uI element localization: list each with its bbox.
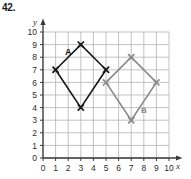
x-tick-label: 1 bbox=[53, 163, 58, 173]
x-tick-label: 10 bbox=[164, 163, 174, 173]
x-tick-label: 9 bbox=[154, 163, 159, 173]
x-tick-label: 6 bbox=[116, 163, 121, 173]
y-axis-arrow-icon bbox=[40, 19, 45, 26]
y-tick-label: 8 bbox=[32, 52, 37, 62]
x-tick-label: 0 bbox=[41, 163, 46, 173]
y-tick-label: 2 bbox=[32, 128, 37, 138]
x-tick-label: 8 bbox=[141, 163, 146, 173]
x-tick-label: 7 bbox=[129, 163, 134, 173]
figure-container: 42. 012345678910012345678910 AB y x bbox=[0, 0, 191, 179]
y-tick-label: 4 bbox=[32, 103, 37, 113]
y-tick-label: 6 bbox=[32, 78, 37, 88]
shape-label-b: B bbox=[141, 106, 147, 115]
y-tick-label: 3 bbox=[32, 115, 37, 125]
x-tick-label: 5 bbox=[104, 163, 109, 173]
y-tick-label: 5 bbox=[32, 90, 37, 100]
y-tick-label: 10 bbox=[28, 27, 38, 37]
y-tick-label: 1 bbox=[32, 141, 37, 151]
x-tick-label: 2 bbox=[66, 163, 71, 173]
y-tick-label: 7 bbox=[32, 65, 37, 75]
x-tick-label: 4 bbox=[91, 163, 96, 173]
y-tick-label: 0 bbox=[32, 153, 37, 163]
shape-label-a: A bbox=[65, 47, 72, 57]
tick-labels: 012345678910012345678910 bbox=[28, 27, 174, 173]
grid-lines bbox=[43, 32, 169, 158]
y-tick-label: 9 bbox=[32, 40, 37, 50]
x-axis-label: x bbox=[175, 161, 180, 171]
y-axis-label: y bbox=[32, 17, 37, 27]
coordinate-plane-chart: 012345678910012345678910 AB y x bbox=[0, 0, 191, 179]
x-axis-arrow-icon bbox=[176, 155, 183, 160]
x-tick-label: 3 bbox=[78, 163, 83, 173]
